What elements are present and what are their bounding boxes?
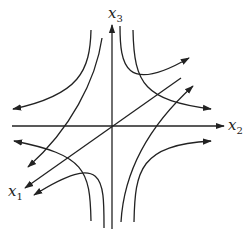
- trajectory-upper-right-inner: [120, 26, 189, 75]
- x3-axis-label: x3: [108, 6, 123, 24]
- trajectory-lower-left-outer: [14, 141, 91, 221]
- trajectory-lower-left-inner: [34, 173, 104, 228]
- trajectory-upper-left: [13, 30, 91, 109]
- trajectory-upper-right-outer: [133, 30, 211, 109]
- x1-axis-label: x1: [8, 184, 23, 202]
- trajectory-lower-right: [134, 141, 211, 222]
- x2-axis-label: x2: [228, 118, 243, 136]
- phase-portrait: [0, 0, 251, 237]
